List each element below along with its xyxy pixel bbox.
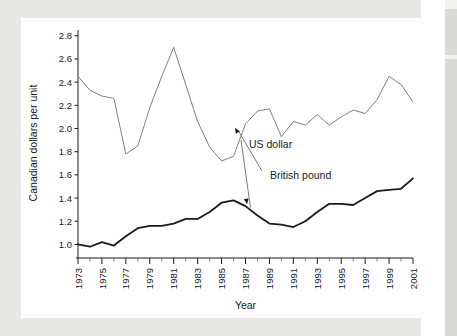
page-right-white-gap (421, 0, 445, 336)
x-tick-label: 1997 (360, 268, 371, 289)
x-axis-title: Year (235, 299, 257, 311)
annotation-label-us-dollar: US dollar (249, 138, 293, 150)
line-chart: 1.01.21.41.61.82.02.22.42.62.8 197319751… (21, 18, 421, 318)
y-tick-label: 2.2 (59, 100, 72, 111)
x-tick-label: 1975 (97, 268, 108, 289)
x-axis-ticks (78, 258, 413, 264)
y-axis-ticks (75, 36, 79, 245)
y-axis-tick-labels: 1.01.21.41.61.82.02.22.42.62.8 (59, 30, 72, 250)
x-tick-label: 1979 (144, 268, 155, 289)
x-tick-label: 1999 (384, 268, 395, 289)
y-tick-label: 1.8 (59, 146, 72, 157)
x-tick-label: 1989 (264, 268, 275, 289)
x-tick-label: 1993 (312, 268, 323, 289)
figure-page: 1.01.21.41.61.82.02.22.42.62.8 197319751… (21, 18, 421, 318)
series-annotations: British poundUS dollar (235, 128, 331, 208)
y-tick-label: 2.0 (59, 123, 72, 134)
page-edge-seam-top (445, 0, 457, 9)
series-line-us-dollar (78, 178, 413, 246)
x-tick-label: 1983 (192, 268, 203, 289)
y-tick-label: 1.0 (59, 239, 72, 250)
x-tick-label: 1985 (216, 268, 227, 289)
y-axis-title: Canadian dollars per unit (27, 85, 39, 202)
annotation-label-british-pound: British pound (270, 169, 331, 181)
y-tick-label: 1.2 (59, 216, 72, 227)
x-tick-label: 2001 (408, 268, 419, 289)
page-edge-seam-second (445, 55, 457, 59)
x-tick-label: 1991 (288, 268, 299, 289)
y-tick-label: 1.6 (59, 169, 72, 180)
x-tick-label: 1987 (240, 268, 251, 289)
x-tick-label: 1973 (73, 268, 84, 289)
x-tick-label: 1981 (168, 268, 179, 289)
y-tick-label: 2.4 (59, 77, 72, 88)
x-tick-label: 1977 (120, 268, 131, 289)
series-line-british-pound (78, 47, 413, 161)
series-lines (78, 47, 413, 246)
x-axis-tick-labels: 1973197519771979198119831985198719891991… (73, 268, 419, 289)
y-tick-label: 2.8 (59, 30, 72, 41)
x-tick-label: 1995 (336, 268, 347, 289)
annotation-leader-line (241, 140, 251, 208)
y-tick-label: 1.4 (59, 193, 72, 204)
page-edge-strip (445, 0, 457, 336)
y-tick-label: 2.6 (59, 53, 72, 64)
annotation-arrowhead (244, 198, 249, 204)
